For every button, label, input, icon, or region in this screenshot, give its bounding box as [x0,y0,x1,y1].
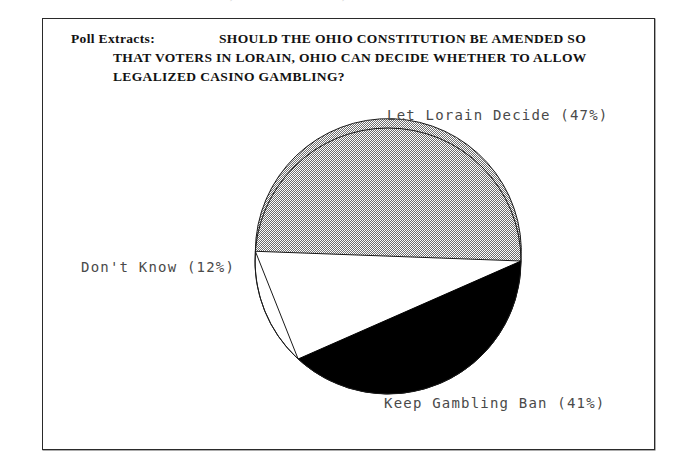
pie-slice-dont-know [255,251,298,359]
pie-label-dont-know: Don't Know (12%) [81,259,235,275]
pie-slice-keep-gambling-ban [298,261,521,394]
pie-label-let-lorain-decide: Let Lorain Decide (47%) [387,107,608,123]
top-cutoff-text: DON'T KNOW 12%, NOT ANSWER 10%, LET LOR … [128,0,429,2]
pie-slice-let-lorain-decide [255,119,521,261]
pie-chart-svg [43,19,656,451]
pie-slices [255,119,521,394]
report-frame: Poll Extracts: SHOULD THE OHIO CONSTITUT… [42,18,655,450]
pie-chart: Let Lorain Decide (47%) Don't Know (12%)… [43,19,656,451]
pie-label-keep-gambling-ban: Keep Gambling Ban (41%) [384,395,605,411]
top-cutoff-text-strip: DON'T KNOW 12%, NOT ANSWER 10%, LET LOR … [0,0,691,9]
